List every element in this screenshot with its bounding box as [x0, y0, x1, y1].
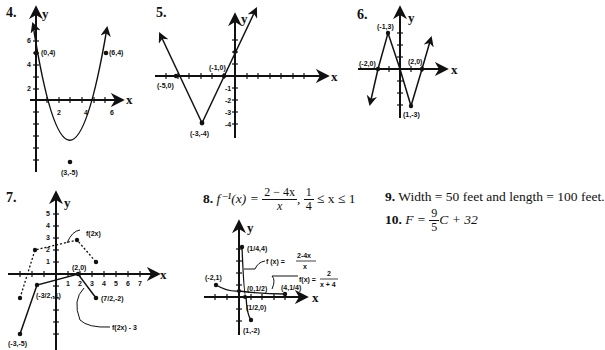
svg-text:(-2,1): (-2,1): [205, 274, 222, 282]
fraction: 14: [304, 186, 314, 213]
svg-text:3: 3: [90, 280, 94, 287]
svg-text:2: 2: [327, 270, 331, 277]
svg-text:6: 6: [126, 280, 130, 287]
problem-8-formula: 8. f⁻¹(x) = 2 − 4xx, 14 ≤ x ≤ 1: [203, 186, 356, 213]
point-label: (0,4): [41, 49, 55, 57]
parabola-curve: [33, 25, 107, 140]
svg-text:6: 6: [27, 37, 31, 44]
svg-text:4: 4: [84, 109, 88, 116]
svg-text:y: y: [241, 11, 248, 26]
svg-text:(2,0): (2,0): [72, 264, 86, 272]
svg-text:(-2,0): (-2,0): [359, 60, 376, 68]
svg-text:(1,-3): (1,-3): [403, 111, 420, 119]
svg-text:x + 4: x + 4: [320, 281, 336, 288]
svg-text:(1/2,0): (1/2,0): [246, 304, 266, 312]
x-axis-label: x: [126, 92, 133, 107]
point-label: (6,4): [109, 49, 123, 57]
svg-text:x: x: [331, 69, 338, 84]
svg-text:f(2x): f(2x): [86, 230, 101, 238]
svg-text:f (x) =: f (x) =: [266, 258, 285, 266]
svg-text:2: 2: [27, 85, 31, 92]
svg-text:-1: -1: [225, 85, 231, 92]
svg-text:4: 4: [102, 280, 106, 287]
svg-text:4: 4: [27, 61, 31, 68]
problem-10-formula: 10. F = 95C + 32: [385, 207, 478, 234]
svg-text:3: 3: [46, 234, 50, 241]
fraction: 2 − 4xx: [262, 186, 297, 213]
graph-4: y x 6 4 2 2 4 6 (0,4) (6,4) (3,-5): [27, 6, 133, 177]
svg-text:(-3,-5): (-3,-5): [8, 340, 27, 348]
svg-text:1: 1: [66, 280, 70, 287]
svg-text:6: 6: [110, 109, 114, 116]
svg-text:(-1,0): (-1,0): [209, 64, 226, 72]
svg-text:(2,0): (2,0): [408, 58, 422, 66]
graph-7: y x 5 4 3 2 1 1 2 3 4 5 6 7 (2,0) (-3/2,…: [8, 193, 167, 350]
svg-text:5: 5: [114, 280, 118, 287]
svg-text:2: 2: [78, 280, 82, 287]
svg-text:(7/2,-2): (7/2,-2): [101, 295, 124, 303]
svg-text:(4,1/4): (4,1/4): [281, 284, 301, 292]
svg-text:5: 5: [46, 210, 50, 217]
svg-text:y: y: [408, 10, 415, 25]
svg-text:(-1,3): (-1,3): [377, 23, 394, 31]
graph-5: y x -1 -2 -3 -4 (-5,0) (-1,0) (-3,-4): [155, 9, 338, 138]
svg-text:x: x: [451, 62, 458, 77]
graph-8: y x (1/4,4) (-2,1) (0,1/2) (4,1/4) (1/2,…: [204, 220, 338, 335]
svg-text:-2: -2: [225, 97, 231, 104]
svg-text:f(x) =: f(x) =: [299, 276, 316, 284]
svg-text:x: x: [303, 263, 307, 270]
svg-text:2: 2: [46, 246, 50, 253]
svg-text:4: 4: [46, 222, 50, 229]
svg-text:1: 1: [46, 258, 50, 265]
svg-text:(-3,-4): (-3,-4): [190, 130, 209, 138]
svg-text:-3: -3: [225, 109, 231, 116]
svg-text:(-5,0): (-5,0): [157, 82, 174, 90]
svg-text:-4: -4: [225, 121, 231, 128]
svg-text:7: 7: [138, 280, 142, 287]
problem-9-text: 9. Width = 50 feet and length = 100 feet…: [385, 189, 605, 205]
svg-text:x: x: [312, 290, 319, 305]
fraction: 95: [429, 207, 439, 234]
point-label: (3,-5): [61, 169, 78, 177]
svg-text:(-3/2,-1): (-3/2,-1): [36, 292, 61, 300]
svg-text:2: 2: [57, 109, 61, 116]
svg-text:y: y: [247, 220, 254, 235]
svg-text:2-4x: 2-4x: [297, 252, 311, 259]
svg-text:(0,1/2): (0,1/2): [247, 285, 267, 293]
svg-text:(1/4,4): (1/4,4): [247, 245, 267, 253]
svg-text:f(2x) - 3: f(2x) - 3: [112, 324, 137, 332]
svg-text:y: y: [64, 195, 71, 210]
svg-text:(1,-2): (1,-2): [243, 327, 260, 335]
graph-6: y x (-1,3) (-2,0) (2,0) (1,-3): [358, 8, 458, 119]
y-axis-label: y: [42, 6, 49, 21]
svg-text:x: x: [160, 267, 167, 282]
